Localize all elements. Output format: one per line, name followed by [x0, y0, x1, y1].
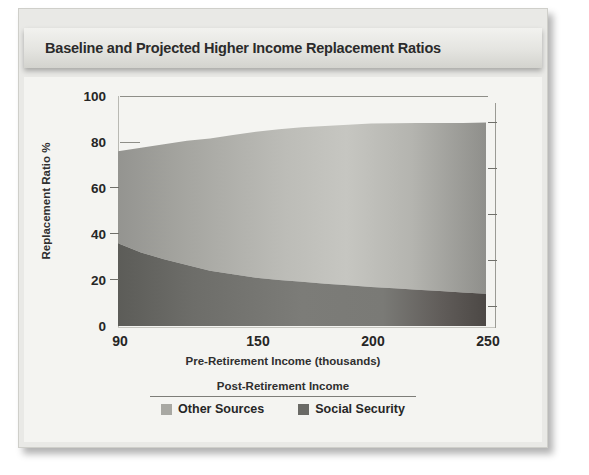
- y-tick-mark-20: [110, 279, 119, 280]
- chart-title-bar: Baseline and Projected Higher Income Rep…: [24, 28, 542, 68]
- right-tick-40: [488, 214, 497, 215]
- y-tick-label-60: 60: [66, 181, 106, 196]
- legend: Post-Retirement Income Other Sources Soc…: [24, 380, 542, 416]
- plot-card: 100 80 60 40 20 0 Replacement Ratio % 90…: [24, 77, 542, 442]
- y-tick-label-0: 0: [66, 319, 106, 334]
- y-tick-mark-40: [110, 233, 119, 234]
- legend-swatch-social-security: [298, 404, 309, 415]
- x-axis-spine: [118, 327, 496, 328]
- right-tick-0: [488, 306, 497, 307]
- y-tick-label-40: 40: [66, 227, 106, 242]
- right-axis-spine: [495, 103, 496, 328]
- right-tick-80: [488, 122, 497, 123]
- area-chart-svg: [118, 96, 486, 326]
- right-tick-60: [488, 168, 497, 169]
- y-axis-title: Replacement Ratio %: [40, 116, 52, 286]
- x-tick-label-200: 200: [361, 333, 384, 349]
- legend-item-social-security[interactable]: Social Security: [298, 402, 405, 416]
- legend-title: Post-Retirement Income: [24, 380, 542, 392]
- legend-divider: [150, 396, 416, 397]
- y-tick-label-100: 100: [66, 89, 106, 104]
- y-tick-mark-60: [110, 187, 119, 188]
- right-tick-20: [488, 260, 497, 261]
- page-title: Baseline and Projected Higher Income Rep…: [24, 40, 441, 56]
- x-tick-label-250: 250: [476, 333, 499, 349]
- legend-swatch-other-sources: [161, 404, 172, 415]
- legend-item-other-sources[interactable]: Other Sources: [161, 402, 264, 416]
- x-axis-title: Pre-Retirement Income (thousands): [24, 355, 542, 367]
- x-tick-label-150: 150: [246, 333, 269, 349]
- y-tick-label-20: 20: [66, 273, 106, 288]
- legend-items: Other Sources Social Security: [24, 402, 542, 416]
- legend-label-other-sources: Other Sources: [178, 402, 264, 416]
- legend-label-social-security: Social Security: [315, 402, 405, 416]
- x-tick-label-90: 90: [112, 333, 128, 349]
- chart-figure: Baseline and Projected Higher Income Rep…: [18, 8, 548, 448]
- stacked-area-plot: [118, 96, 486, 326]
- y-axis-tick-labels: 100 80 60 40 20 0: [48, 77, 106, 377]
- y-tick-label-80: 80: [66, 135, 106, 150]
